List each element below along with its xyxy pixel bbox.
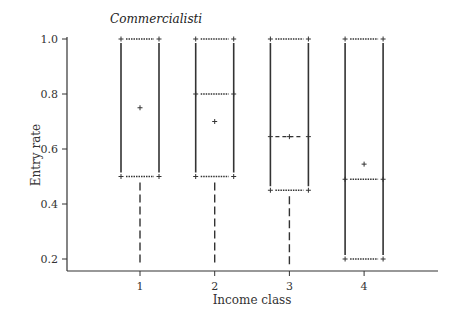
x-tick-label: 2 [211,280,218,293]
x-tick-label: 1 [137,280,144,293]
x-tick-label: 3 [286,280,293,293]
y-ticks: 0.20.40.60.81.0 [41,33,68,266]
boxes [119,37,386,265]
y-tick-label: 1.0 [41,33,59,46]
box-4 [343,37,386,262]
x-axis-label: Income class [213,293,292,307]
box-1 [119,37,162,265]
x-tick-label: 4 [361,280,368,293]
box-2 [193,37,236,265]
y-tick-label: 0.8 [41,88,59,101]
y-axis-label: Entry rate [29,124,43,186]
y-tick-label: 0.6 [41,143,59,156]
x-ticks: 1234 [137,271,368,293]
box-plot-chart: Commercialisti 0.20.40.60.81.0 1234 Inco… [0,0,460,323]
y-tick-label: 0.4 [41,198,59,211]
chart-title: Commercialisti [110,12,202,26]
box-3 [268,37,311,265]
y-tick-label: 0.2 [41,253,59,266]
